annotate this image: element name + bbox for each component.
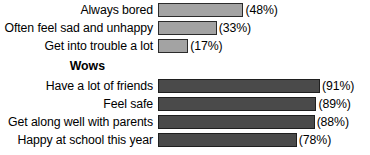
bar-value-label: (48%)	[243, 4, 277, 17]
bar-row-label: Have a lot of friends	[0, 80, 158, 93]
bar-value-label: (88%)	[315, 116, 349, 129]
bar-plot-area: (17%)	[158, 39, 370, 53]
bar-row-label: Happy at school this year	[0, 134, 158, 147]
bar-row: Have a lot of friends(91%)	[0, 77, 370, 95]
bar-row-label: Always bored	[0, 4, 158, 17]
horizontal-bar-chart: Always bored(48%)Often feel sad and unha…	[0, 0, 370, 155]
bar-row-label: Often feel sad and unhappy	[0, 22, 158, 35]
bar-plot-area: (88%)	[158, 115, 370, 129]
bar-row: Get into trouble a lot(17%)	[0, 37, 370, 55]
bar-row: Feel safe(89%)	[0, 95, 370, 113]
bar-value-label: (78%)	[297, 134, 331, 147]
bar-value-label: (89%)	[316, 98, 350, 111]
bar-row: Often feel sad and unhappy(33%)	[0, 19, 370, 37]
bar-row: Get along well with parents(88%)	[0, 113, 370, 131]
bar-row: Always bored(48%)	[0, 1, 370, 19]
bar	[158, 79, 320, 93]
bar-plot-area: (78%)	[158, 133, 370, 147]
bar-plot-area: (89%)	[158, 97, 370, 111]
group-heading: Wows	[0, 60, 158, 73]
bar-row-label: Get into trouble a lot	[0, 40, 158, 53]
bar-value-label: (17%)	[188, 40, 222, 53]
bar-value-label: (91%)	[320, 80, 354, 93]
bar-row-label: Get along well with parents	[0, 116, 158, 129]
bar-value-label: (33%)	[217, 22, 251, 35]
bar	[158, 39, 188, 53]
bar-plot-area: (33%)	[158, 21, 370, 35]
bar	[158, 3, 243, 17]
bar-row: Happy at school this year(78%)	[0, 131, 370, 149]
bar	[158, 133, 297, 147]
bar	[158, 115, 315, 129]
bar	[158, 21, 217, 35]
bar-plot-area: (91%)	[158, 79, 370, 93]
bar	[158, 97, 316, 111]
bar-plot-area: (48%)	[158, 3, 370, 17]
bar-row-label: Feel safe	[0, 98, 158, 111]
